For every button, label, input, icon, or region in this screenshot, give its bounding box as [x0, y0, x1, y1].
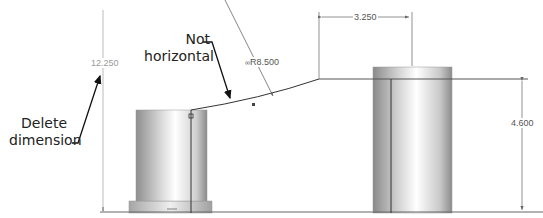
- dimension-r8500[interactable]: ∞R8.500: [244, 57, 280, 67]
- callout-line2: horizontal: [140, 48, 218, 65]
- callout-line2: dimension: [9, 132, 79, 149]
- right-cylinder: [373, 67, 452, 213]
- callout-line1: Delete: [9, 115, 79, 132]
- sketch-drawing: [0, 0, 543, 218]
- left-base-plate: [129, 201, 212, 213]
- sketch-canvas: Delete dimension Not horizontal 12.250 ∞…: [0, 0, 543, 218]
- delete-dimension-callout: Delete dimension: [9, 115, 79, 149]
- dimension-3250[interactable]: 3.250: [353, 12, 378, 22]
- dim-r8500-leader: [225, 0, 273, 96]
- callout-line1: Not: [140, 31, 218, 48]
- dimension-4600[interactable]: 4.600: [510, 118, 535, 128]
- not-horizontal-callout: Not horizontal: [140, 31, 218, 65]
- arc-center-point: [252, 103, 255, 106]
- left-cylinder: [136, 110, 207, 201]
- dimension-12250[interactable]: 12.250: [90, 58, 120, 68]
